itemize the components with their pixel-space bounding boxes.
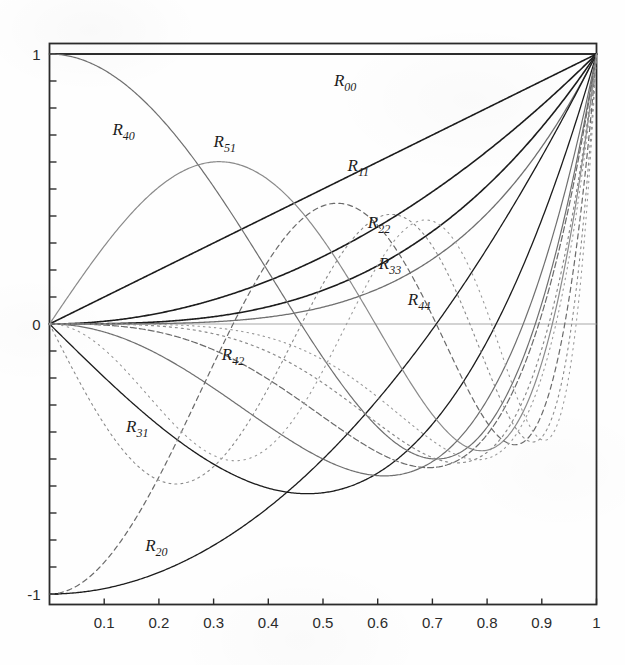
y-tick-label: -1	[27, 586, 40, 603]
x-tick-label: 0.8	[477, 614, 498, 631]
curve-label-subscript: 11	[358, 165, 369, 179]
curve-labels-group: R00R11R22R33R44R20R31R40R42R51	[111, 71, 430, 558]
curve-label-base: R	[378, 254, 390, 273]
curve-label-R31: R31	[125, 417, 148, 440]
curve-label-R40: R40	[111, 120, 134, 143]
curve-label-base: R	[333, 71, 345, 90]
x-tick-label: 0.2	[148, 614, 169, 631]
x-tick-label: 0.5	[313, 614, 334, 631]
curve-label-subscript: 00	[344, 80, 356, 94]
curve-label-subscript: 51	[224, 141, 236, 155]
curve-label-base: R	[367, 213, 379, 232]
curve-R51	[50, 54, 597, 451]
x-tick-label: 0.7	[422, 614, 443, 631]
curve-label-subscript: 33	[388, 263, 401, 277]
curve-label-R42: R42	[221, 345, 244, 368]
curve-label-subscript: 44	[418, 299, 430, 313]
curve-label-subscript: 20	[156, 545, 168, 559]
curve-label-subscript: 42	[232, 354, 244, 368]
curve-label-base: R	[111, 120, 123, 139]
curve-R53	[50, 54, 597, 468]
y-tick-label: 1	[32, 46, 40, 63]
curve-label-base: R	[407, 290, 419, 309]
x-tick-label: 0.6	[367, 614, 388, 631]
curve-label-R33: R33	[378, 254, 401, 277]
curve-label-base: R	[221, 345, 233, 364]
curve-label-subscript: 22	[378, 222, 390, 236]
curve-label-subscript: 40	[123, 129, 135, 143]
x-tick-label: 0.9	[531, 614, 552, 631]
x-tick-label: 0.4	[258, 614, 279, 631]
curve-label-R51: R51	[213, 132, 236, 155]
curve-label-base: R	[347, 156, 359, 175]
curve-label-R00: R00	[333, 71, 356, 94]
x-tick-label: 1	[592, 614, 600, 631]
y-tick-label: 0	[32, 316, 40, 333]
curve-label-base: R	[125, 417, 137, 436]
zernike-radial-polynomial-plot: R00R11R22R33R44R20R31R40R42R51 0.10.20.3…	[0, 0, 625, 665]
x-tick-label: 0.3	[203, 614, 224, 631]
curve-label-R22: R22	[367, 213, 390, 236]
curve-label-subscript: 31	[135, 426, 148, 440]
curve-label-base: R	[144, 536, 156, 555]
figure-canvas: R00R11R22R33R44R20R31R40R42R51 0.10.20.3…	[0, 0, 625, 665]
x-tick-label: 0.1	[94, 614, 115, 631]
curve-R42	[50, 54, 597, 476]
curve-label-R44: R44	[407, 290, 430, 313]
curve-label-base: R	[213, 132, 225, 151]
curve-label-R20: R20	[144, 536, 167, 559]
